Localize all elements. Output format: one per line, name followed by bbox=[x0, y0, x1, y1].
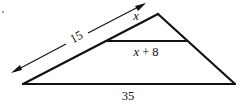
right-side bbox=[158, 14, 235, 84]
parallel-segment-label-rest: + 8 bbox=[139, 45, 159, 59]
dimension-arrow-lower-segment bbox=[15, 44, 66, 71]
parallel-segment-label: x + 8 bbox=[132, 45, 158, 59]
triangle-diagram: 15 x x + 8 35 bbox=[0, 0, 241, 108]
side-length-label: 15 bbox=[68, 28, 86, 46]
outer-triangle bbox=[23, 14, 235, 84]
base-length-label: 35 bbox=[122, 89, 135, 103]
arrow-head-lower-left-icon bbox=[11, 65, 22, 73]
scan-speck bbox=[2, 11, 4, 13]
upper-side-label: x bbox=[132, 9, 139, 23]
